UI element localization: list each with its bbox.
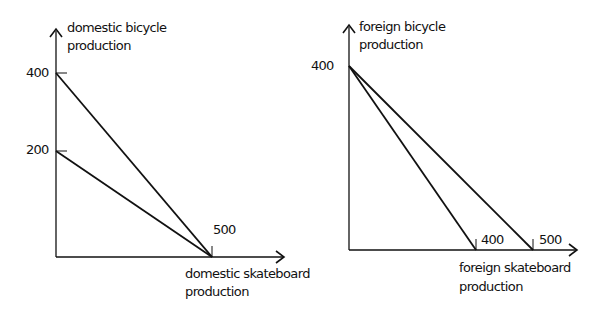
right-tick-label-500x: 500 [539, 232, 561, 247]
right-y-label-line1: foreign bicycle [359, 19, 445, 35]
left-y-label-line1: domestic bicycle [67, 20, 167, 36]
right-tick-label-400y: 400 [311, 58, 333, 73]
left-x-label-line1: domestic skateboard [185, 266, 310, 282]
right-tick-label-400x: 400 [481, 232, 503, 247]
right-x-label-line1: foreign skateboard [459, 260, 571, 276]
right-ppf-500 [349, 66, 533, 250]
right-diagram [343, 25, 577, 256]
left-x-label-line2: production [185, 284, 249, 300]
left-tick-label-200: 200 [26, 142, 48, 157]
right-ppf-400 [349, 66, 476, 250]
left-tick-label-400: 400 [26, 65, 48, 80]
right-x-label-line2: production [459, 279, 523, 295]
left-y-label-line2: production [67, 38, 131, 54]
left-ppf-400 [56, 73, 212, 257]
left-tick-label-500: 500 [213, 222, 235, 237]
left-ppf-200 [56, 151, 212, 257]
right-y-label-line2: production [359, 37, 423, 53]
left-diagram [50, 29, 284, 263]
